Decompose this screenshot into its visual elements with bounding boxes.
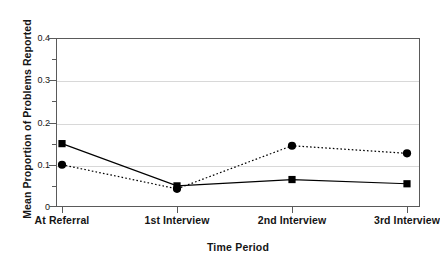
x-tick-label-1st-interview: 1st Interview	[145, 214, 210, 226]
gridline-0_1	[57, 166, 419, 167]
y-axis-tick-marks	[0, 38, 56, 207]
x-tick-label-3rd-interview: 3rd Interview	[374, 214, 440, 226]
y-tick-major-0_4	[49, 38, 56, 39]
y-tick-major-0_3	[49, 80, 56, 81]
x-axis-title: Time Period	[56, 241, 420, 253]
x-tick-2nd-interview	[292, 207, 293, 213]
gridline-0_2	[57, 124, 419, 125]
gridline-0_3	[57, 81, 419, 82]
y-tick-major-0_1	[49, 165, 56, 166]
x-tick-at-referral	[62, 207, 63, 213]
y-tick-major-0_2	[49, 123, 56, 124]
x-tick-1st-interview	[177, 207, 178, 213]
x-tick-3rd-interview	[407, 207, 408, 213]
y-tick-major-0	[49, 206, 56, 207]
x-tick-label-at-referral: At Referral	[35, 214, 90, 226]
x-tick-label-2nd-interview: 2nd Interview	[258, 214, 326, 226]
plot-area	[56, 38, 420, 207]
